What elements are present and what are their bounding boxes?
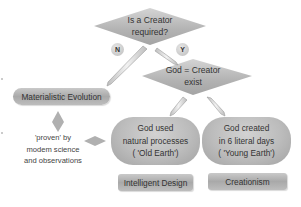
outcome-line: ( 'Old Earth') — [123, 147, 189, 160]
note-line: and observations — [18, 155, 88, 167]
no-branch-badge: N — [111, 43, 124, 56]
proven-note: 'proven' by modem science and observatio… — [18, 132, 88, 167]
note-line: modem science — [18, 144, 88, 156]
decision-text-line: required? — [110, 27, 190, 39]
arrow-yes-branch — [155, 48, 178, 65]
decision-text-line: exist — [155, 77, 231, 89]
decision-text-line: Is a Creator — [110, 15, 190, 27]
outcome-line: in 6 literal days — [218, 135, 274, 148]
decision-text-line: God = Creator — [155, 65, 231, 77]
decision-god-exists-text: God = Creator exist — [155, 65, 231, 88]
arrow-to-young-earth — [207, 97, 225, 116]
outcome-old-earth: God used natural processes ( 'Old Earth'… — [111, 117, 200, 165]
arrow-to-old-earth — [170, 97, 187, 116]
category-creationism: Creationism — [208, 173, 287, 190]
edge-mark — [1, 78, 3, 80]
connector-diamond-vertical — [52, 111, 64, 132]
outcome-line: natural processes — [123, 135, 189, 148]
note-line: 'proven' by — [18, 132, 88, 144]
decision-creator-required-text: Is a Creator required? — [110, 15, 190, 38]
category-intelligent-design: Intelligent Design — [118, 174, 193, 191]
outcome-young-earth: God created in 6 literal days ( 'Young E… — [202, 117, 291, 165]
materialistic-evolution-node: Materialistic Evolution — [13, 88, 110, 105]
outcome-line: ( 'Young Earth') — [218, 147, 274, 160]
yes-branch-badge: Y — [176, 43, 189, 56]
outcome-line: God used — [123, 122, 189, 135]
edge-mark — [1, 132, 3, 134]
outcome-line: God created — [218, 122, 274, 135]
